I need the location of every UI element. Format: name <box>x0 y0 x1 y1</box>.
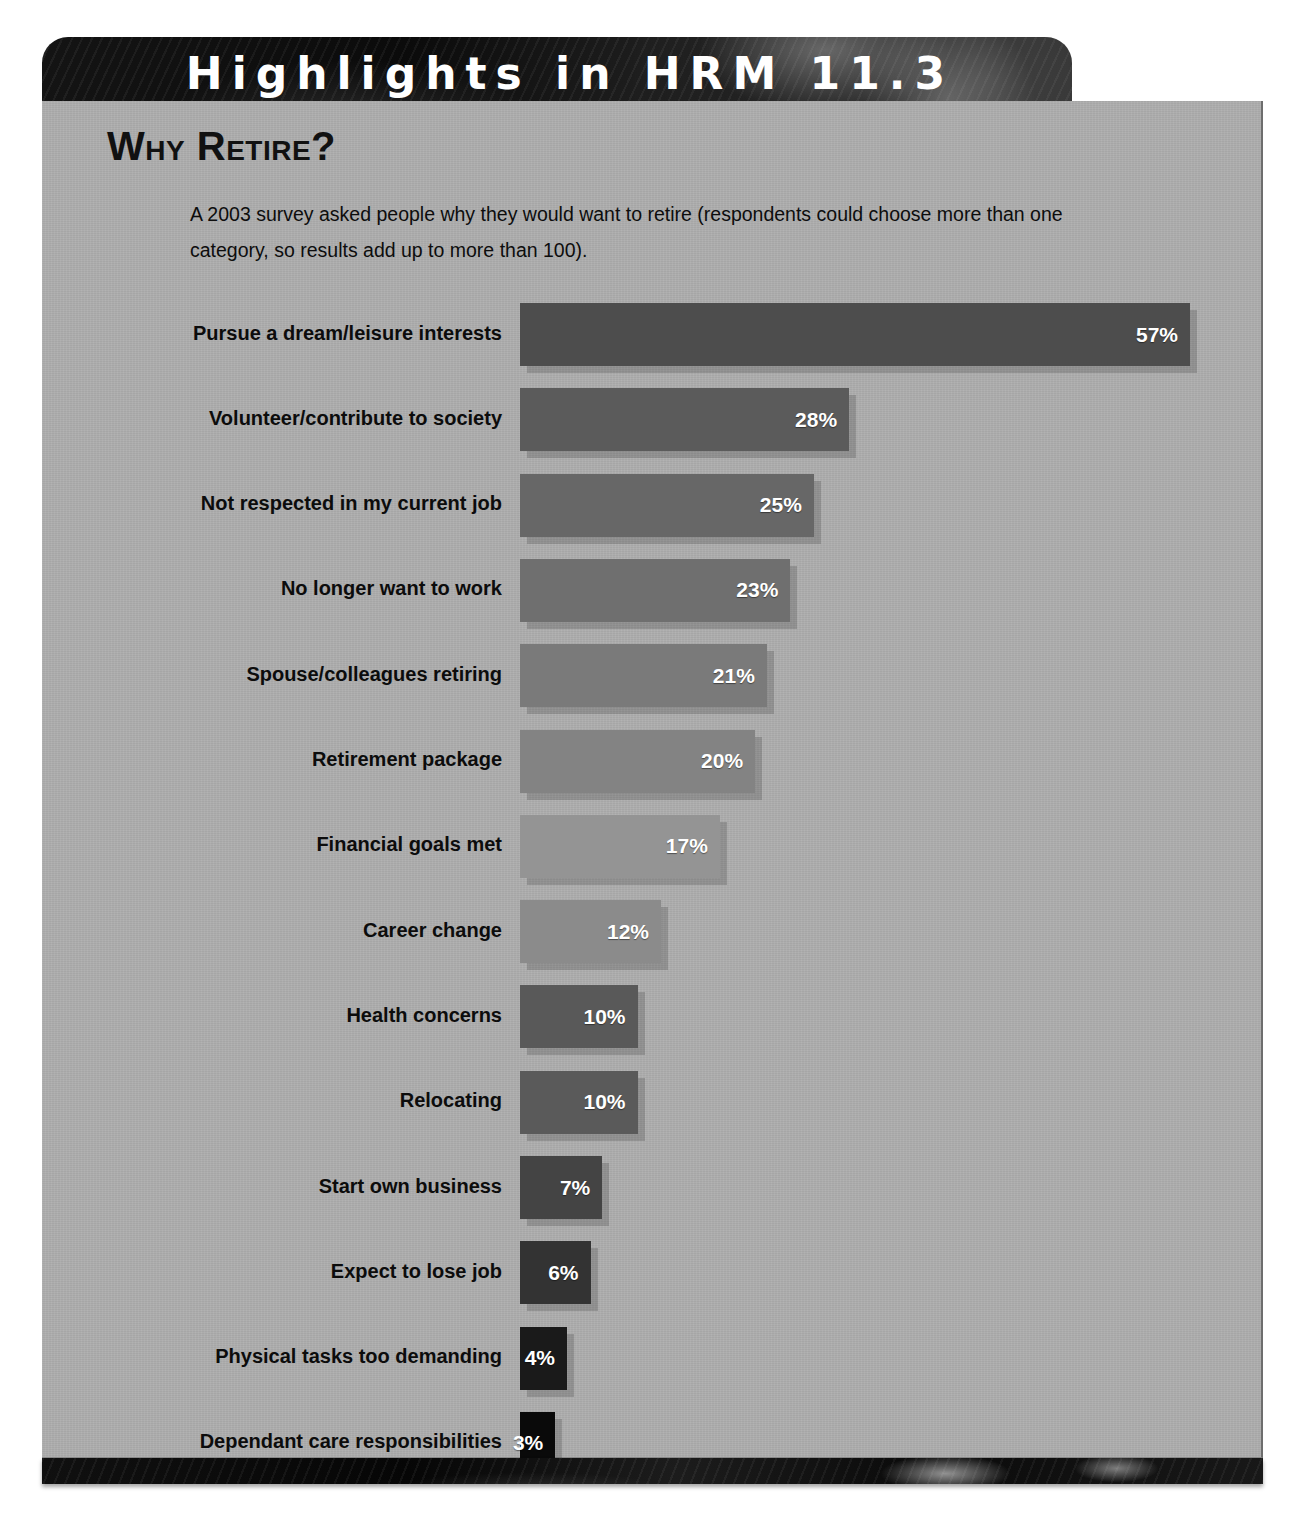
bar-fill: 10% <box>520 1071 638 1134</box>
bar-fill: 57% <box>520 303 1190 366</box>
bar-fill: 20% <box>520 730 755 793</box>
bar-value-label: 10% <box>584 1005 626 1029</box>
bar-row: Pursue a dream/leisure interests57% <box>0 303 1301 366</box>
bar-category-label: Financial goals met <box>40 833 502 856</box>
bar: 12% <box>520 900 661 963</box>
bar: 10% <box>520 1071 638 1134</box>
bar-category-label: Career change <box>40 919 502 942</box>
bar: 17% <box>520 815 720 878</box>
bar-value-label: 6% <box>548 1261 578 1285</box>
bar-row: Retirement package20% <box>0 730 1301 793</box>
bar-value-label: 25% <box>760 493 802 517</box>
bar-value-label: 28% <box>795 408 837 432</box>
bar-category-label: Relocating <box>40 1089 502 1112</box>
bar-fill: 28% <box>520 388 849 451</box>
bar-row: Not respected in my current job25% <box>0 474 1301 537</box>
bar-fill: 10% <box>520 985 638 1048</box>
bar-row: Expect to lose job6% <box>0 1241 1301 1304</box>
bar-row: Financial goals met17% <box>0 815 1301 878</box>
bar: 4% <box>520 1327 567 1390</box>
footer-strip <box>42 1458 1263 1484</box>
bar-value-label: 21% <box>713 664 755 688</box>
bar-fill: 25% <box>520 474 814 537</box>
bar: 6% <box>520 1241 591 1304</box>
bar-fill: 12% <box>520 900 661 963</box>
bar-row: Start own business7% <box>0 1156 1301 1219</box>
bar-category-label: Health concerns <box>40 1004 502 1027</box>
bar-value-label: 10% <box>584 1090 626 1114</box>
bar-category-label: Start own business <box>40 1175 502 1198</box>
bar: 20% <box>520 730 755 793</box>
bar-category-label: Expect to lose job <box>40 1260 502 1283</box>
bar-category-label: Pursue a dream/leisure interests <box>40 322 502 345</box>
bar-row: No longer want to work23% <box>0 559 1301 622</box>
bar-category-label: Not respected in my current job <box>40 492 502 515</box>
bar-row: Spouse/colleagues retiring21% <box>0 644 1301 707</box>
bar: 21% <box>520 644 767 707</box>
bar: 28% <box>520 388 849 451</box>
header-title: Highlights in HRM 11.3 <box>42 48 1072 99</box>
bar-row: Volunteer/contribute to society28% <box>0 388 1301 451</box>
bar-fill: 23% <box>520 559 790 622</box>
bar-value-label: 20% <box>701 749 743 773</box>
bar-category-label: Retirement package <box>40 748 502 771</box>
bar-fill: 6% <box>520 1241 591 1304</box>
bar-category-label: Physical tasks too demanding <box>40 1345 502 1368</box>
bar-value-label: 57% <box>1136 323 1178 347</box>
bar-value-label: 23% <box>736 578 778 602</box>
bar-row: Physical tasks too demanding4% <box>0 1327 1301 1390</box>
bar-fill: 17% <box>520 815 720 878</box>
bar-value-label: 12% <box>607 920 649 944</box>
bar-category-label: No longer want to work <box>40 577 502 600</box>
bar-fill: 4% <box>520 1327 567 1390</box>
bar-category-label: Dependant care responsibilities <box>40 1430 502 1453</box>
bar-value-label: 7% <box>560 1176 590 1200</box>
bar-category-label: Spouse/colleagues retiring <box>40 663 502 686</box>
bar-chart: Pursue a dream/leisure interests57%Volun… <box>0 0 1301 1517</box>
bar-value-label: 17% <box>666 834 708 858</box>
bar: 10% <box>520 985 638 1048</box>
bar-fill: 7% <box>520 1156 602 1219</box>
bar-row: Health concerns10% <box>0 985 1301 1048</box>
bar-value-label: 3% <box>513 1431 543 1455</box>
bar-category-label: Volunteer/contribute to society <box>40 407 502 430</box>
bar: 57% <box>520 303 1190 366</box>
bar-row: Relocating10% <box>0 1071 1301 1134</box>
bar-value-label: 4% <box>525 1346 555 1370</box>
bar-fill: 21% <box>520 644 767 707</box>
bar: 25% <box>520 474 814 537</box>
bar: 7% <box>520 1156 602 1219</box>
highlights-figure: Highlights in HRM 11.3 Why Retire? A 200… <box>0 0 1301 1517</box>
bar-row: Career change12% <box>0 900 1301 963</box>
header-tab: Highlights in HRM 11.3 <box>42 37 1072 109</box>
bar: 23% <box>520 559 790 622</box>
